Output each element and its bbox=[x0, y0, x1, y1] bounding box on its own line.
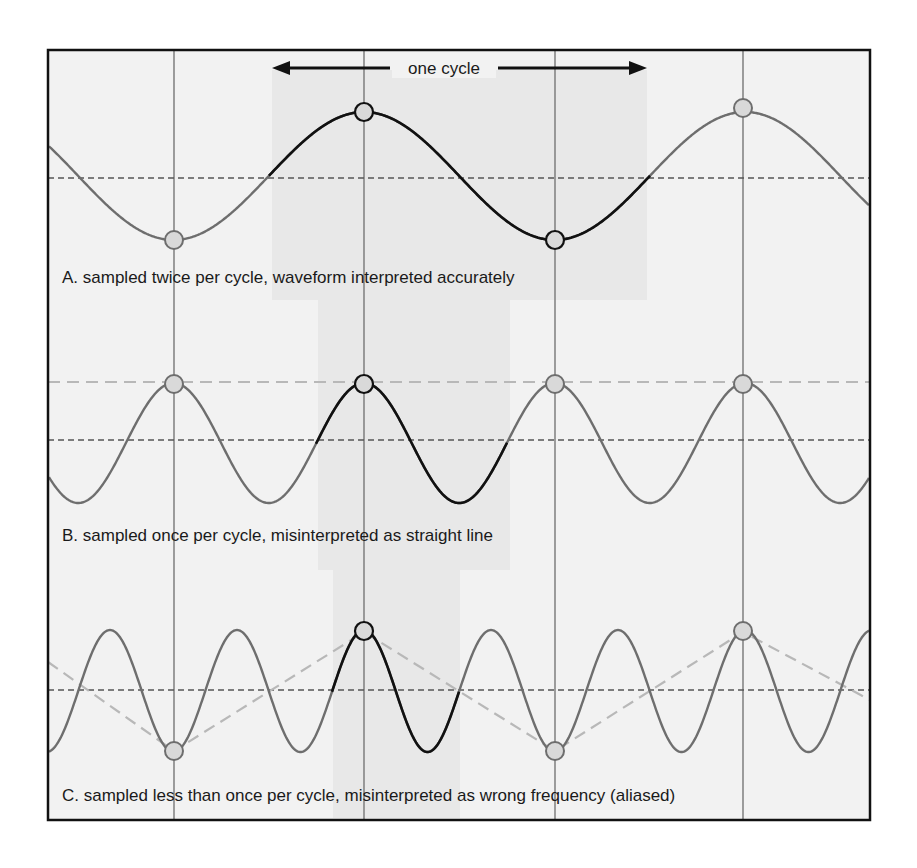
sample-point bbox=[355, 622, 373, 640]
sample-point bbox=[546, 231, 564, 249]
cycle-highlight-a bbox=[272, 70, 647, 300]
sample-point bbox=[165, 231, 183, 249]
sample-point bbox=[734, 375, 752, 393]
sample-point bbox=[734, 622, 752, 640]
sample-point bbox=[165, 742, 183, 760]
sample-point bbox=[355, 103, 373, 121]
caption-c: C. sampled less than once per cycle, mis… bbox=[62, 786, 675, 805]
caption-b: B. sampled once per cycle, misinterprete… bbox=[62, 526, 493, 545]
sample-point bbox=[355, 375, 373, 393]
sample-point bbox=[546, 375, 564, 393]
sample-point bbox=[165, 375, 183, 393]
one-cycle-label: one cycle bbox=[408, 59, 480, 78]
caption-a: A. sampled twice per cycle, waveform int… bbox=[62, 268, 515, 287]
sample-point bbox=[734, 99, 752, 117]
sample-point bbox=[546, 742, 564, 760]
sampling-aliasing-diagram: one cycle A. sampled twice per cycle, wa… bbox=[0, 0, 917, 868]
